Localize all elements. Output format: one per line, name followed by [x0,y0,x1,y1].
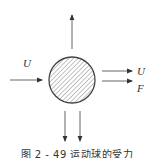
incoming-velocity-label: U [23,57,32,69]
figure-caption: 图 2 - 49 运动球的受力 [0,149,154,158]
force-diagram: U U F [0,0,154,158]
force-label: F [136,82,144,94]
outgoing-velocity-label: U [137,65,146,77]
hatched-sphere [49,57,95,103]
